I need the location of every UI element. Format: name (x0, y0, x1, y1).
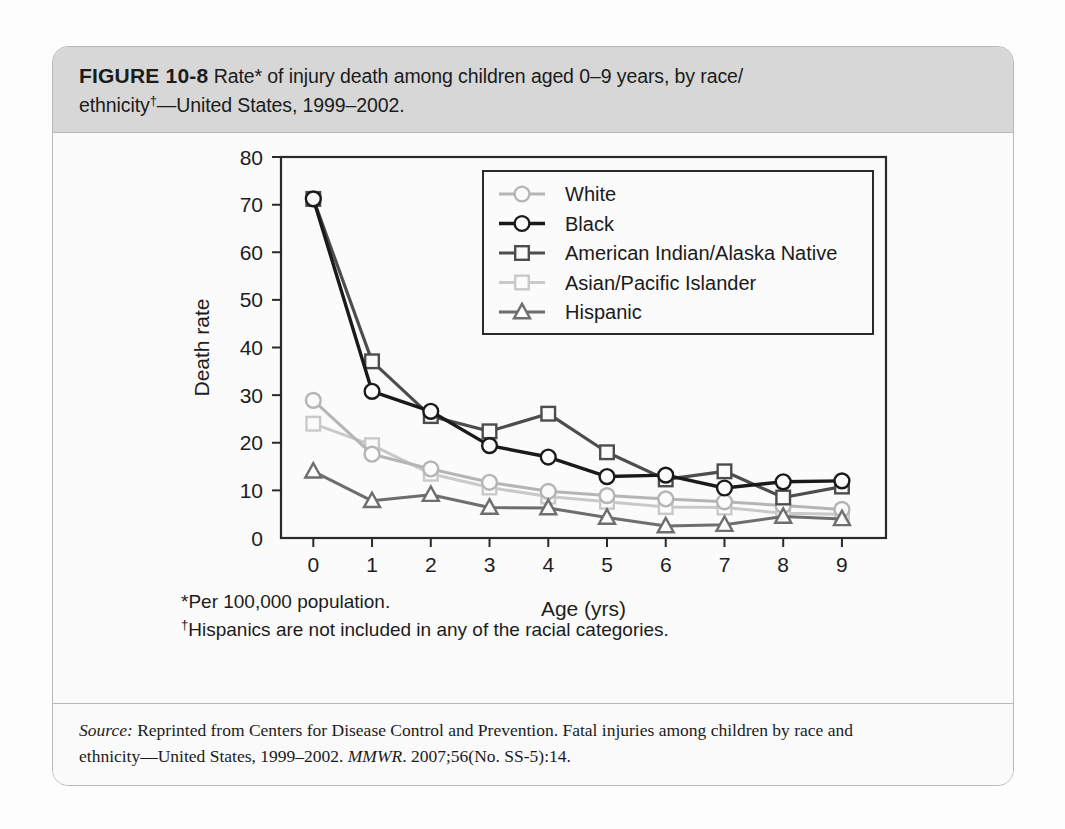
caption-text-2-pre: ethnicity (79, 94, 150, 116)
figure-card: FIGURE 10-8 Rate* of injury death among … (52, 46, 1014, 786)
data-point-square (515, 246, 529, 260)
data-point-circle (515, 187, 530, 202)
x-tick-label: 6 (660, 553, 672, 576)
x-tick-label: 7 (719, 553, 731, 576)
data-point-triangle (423, 486, 439, 500)
caption-line-1: FIGURE 10-8 Rate* of injury death among … (79, 61, 987, 91)
source-line-2: ethnicity—United States, 1999–2002. MMWR… (79, 743, 987, 769)
figure-page: FIGURE 10-8 Rate* of injury death among … (0, 0, 1065, 829)
legend-layer: WhiteBlackAmerican Indian/Alaska NativeA… (483, 171, 873, 334)
data-point-circle (541, 484, 556, 499)
caption-line-2: ethnicity†—United States, 1999–2002. (79, 91, 987, 120)
y-tick-label: 20 (240, 431, 263, 454)
data-point-circle (541, 450, 556, 465)
figure-body: 010203040506070800123456789Age (yrs)Deat… (53, 133, 1013, 703)
data-point-square (600, 445, 614, 459)
figure-number: FIGURE 10-8 (79, 64, 208, 87)
caption-dagger-symbol: † (150, 93, 157, 108)
data-point-circle (600, 469, 615, 484)
source-text-1: Reprinted from Centers for Disease Contr… (133, 720, 853, 740)
source-label: Source: (79, 720, 133, 740)
data-point-triangle (305, 463, 321, 477)
x-tick-label: 8 (777, 553, 789, 576)
data-point-square (365, 355, 379, 369)
legend-label: Hispanic (565, 301, 642, 323)
y-axis-title: Death rate (190, 298, 213, 396)
caption-text-2-post: —United States, 1999–2002. (157, 94, 405, 116)
y-tick-label: 50 (240, 288, 263, 311)
legend-label: White (565, 183, 616, 205)
data-point-circle (835, 473, 850, 488)
footnote-dagger: †Hispanics are not included in any of th… (181, 616, 921, 644)
series-line (313, 424, 842, 514)
data-point-circle (365, 447, 380, 462)
y-tick-label: 70 (240, 193, 263, 216)
data-point-circle (776, 474, 791, 489)
data-point-square (515, 276, 529, 290)
x-tick-label: 2 (425, 553, 437, 576)
data-point-square (718, 465, 732, 479)
data-point-circle (717, 481, 732, 496)
footnote-star: *Per 100,000 population. (181, 588, 921, 616)
figure-caption-header: FIGURE 10-8 Rate* of injury death among … (53, 47, 1013, 133)
source-journal: MMWR (348, 746, 402, 766)
data-point-circle (306, 192, 321, 207)
y-tick-label: 60 (240, 241, 263, 264)
x-tick-label: 5 (601, 553, 613, 576)
data-point-circle (600, 488, 615, 503)
data-point-circle (482, 475, 497, 490)
source-line-1: Source: Reprinted from Centers for Disea… (79, 717, 987, 743)
x-tick-label: 0 (307, 553, 319, 576)
source-text-2-pre: ethnicity—United States, 1999–2002. (79, 746, 348, 766)
footnote-dagger-text: Hispanics are not included in any of the… (188, 619, 669, 640)
y-tick-label: 10 (240, 479, 263, 502)
y-tick-label: 80 (240, 146, 263, 169)
data-point-circle (306, 393, 321, 408)
x-tick-label: 4 (542, 553, 554, 576)
legend-label: Black (565, 213, 615, 235)
footnotes-block: *Per 100,000 population. †Hispanics are … (181, 588, 921, 644)
data-point-circle (423, 462, 438, 477)
legend-label: Asian/Pacific Islander (565, 272, 757, 294)
x-tick-label: 3 (484, 553, 496, 576)
figure-source-block: Source: Reprinted from Centers for Disea… (53, 703, 1013, 786)
data-point-circle (423, 404, 438, 419)
y-tick-label: 40 (240, 336, 263, 359)
data-point-circle (515, 216, 530, 231)
data-point-circle (658, 492, 673, 507)
data-point-circle (482, 438, 497, 453)
source-text-2-post: . 2007;56(No. SS-5):14. (402, 746, 571, 766)
data-point-square (307, 417, 321, 431)
data-point-square (776, 491, 790, 505)
legend-label: American Indian/Alaska Native (565, 242, 837, 264)
x-tick-label: 9 (836, 553, 848, 576)
y-tick-label: 30 (240, 384, 263, 407)
caption-text-1: Rate* of injury death among children age… (214, 65, 743, 87)
data-point-circle (717, 494, 732, 509)
data-point-circle (365, 384, 380, 399)
data-point-square (483, 425, 497, 439)
y-tick-label: 0 (251, 527, 263, 550)
data-point-square (541, 407, 555, 421)
data-point-circle (658, 468, 673, 483)
x-tick-label: 1 (366, 553, 378, 576)
